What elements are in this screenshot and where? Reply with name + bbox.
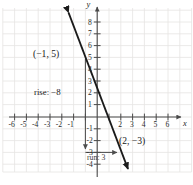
x-tick-label--4: -4 [32,121,38,129]
x-tick-label--6: -6 [9,121,15,129]
y-tick-label-6: 6 [88,42,92,50]
x-tick-label-6: 6 [165,121,169,129]
y-tick-label-1: 1 [88,101,92,109]
y-tick-label-3: 3 [88,78,92,86]
run-label: run: 3 [87,154,105,162]
y-tick-label--2: -2 [86,137,92,145]
y-tick-label-8: 8 [88,19,92,27]
x-tick-label--1: -1 [68,121,74,129]
point-b-label: (2, −3) [119,136,145,146]
x-tick-label-4: 4 [142,121,146,129]
y-tick-label-5: 5 [88,54,92,62]
x-tick-label--5: -5 [20,121,26,129]
x-tick-label--3: -3 [44,121,50,129]
graph-figure: -6 -5 -4 -3 -2 -1 2 3 4 5 6 8 7 6 5 4 3 … [0,0,193,185]
rise-label: rise: −8 [34,88,61,97]
y-tick-label--1: -1 [86,125,92,133]
x-axis-label: x [183,120,187,128]
y-axis-label: y [87,1,91,9]
y-tick-label-4: 4 [88,66,92,74]
x-tick-label-3: 3 [130,121,134,129]
x-tick-label--2: -2 [56,121,62,129]
y-tick-label-7: 7 [88,30,92,38]
y-tick-label-2: 2 [88,89,92,97]
y-tick-label--4: -4 [86,161,92,169]
x-tick-label-5: 5 [154,121,158,129]
x-tick-label-2: 2 [118,121,122,129]
point-a-label: (−1, 5) [33,49,59,59]
